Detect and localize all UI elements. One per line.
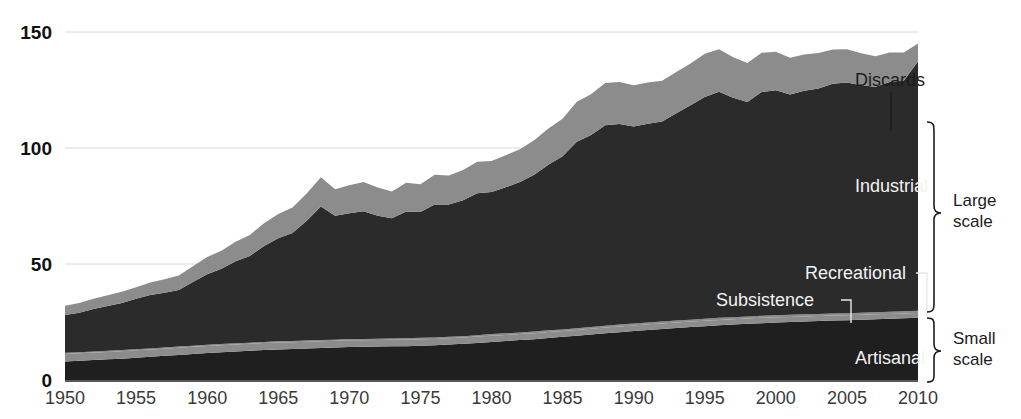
x-tick-1975: 1975 <box>400 388 440 408</box>
bracket-large-scale-label-line1: Large <box>953 191 996 210</box>
bracket-large-scale-label-line2: scale <box>953 212 993 231</box>
annotation-discards-label: Discards <box>855 70 925 90</box>
x-tick-1995: 1995 <box>685 388 725 408</box>
x-axis-tick-labels: 1950195519601965197019751980198519901995… <box>45 388 938 408</box>
x-tick-1990: 1990 <box>614 388 654 408</box>
x-tick-2005: 2005 <box>827 388 867 408</box>
annotation-recreational-label: Recreational <box>805 263 906 283</box>
annotation-industrial-label: Industrial <box>855 176 928 196</box>
annotation-artisanal: Artisanal <box>855 348 925 368</box>
bracket-small-scale-shape <box>927 318 941 382</box>
bracket-small-scale-label-line2: scale <box>953 350 993 369</box>
y-tick-100: 100 <box>20 138 52 159</box>
bracket-large-scale-shape <box>927 122 941 312</box>
stacked-area-chart: 150100500 195019551960196519701975198019… <box>0 0 1021 419</box>
x-tick-2000: 2000 <box>756 388 796 408</box>
x-tick-1980: 1980 <box>471 388 511 408</box>
bracket-small-scale: Small scale <box>927 318 996 382</box>
x-tick-2010: 2010 <box>898 388 938 408</box>
x-tick-1965: 1965 <box>258 388 298 408</box>
y-axis-tick-labels: 150100500 <box>20 22 52 391</box>
y-tick-150: 150 <box>20 22 52 43</box>
annotation-artisanal-label: Artisanal <box>855 348 925 368</box>
x-tick-1950: 1950 <box>45 388 85 408</box>
area-series-group <box>65 44 918 380</box>
chart-figure: 150100500 195019551960196519701975198019… <box>0 0 1021 419</box>
annotation-subsistence-label: Subsistence <box>716 290 814 310</box>
y-tick-50: 50 <box>31 254 52 275</box>
x-tick-1955: 1955 <box>116 388 156 408</box>
x-tick-1970: 1970 <box>329 388 369 408</box>
x-tick-1985: 1985 <box>543 388 583 408</box>
bracket-small-scale-label-line1: Small <box>953 329 996 348</box>
annotation-industrial: Industrial <box>855 176 928 196</box>
bracket-large-scale: Large scale <box>927 122 996 312</box>
x-tick-1960: 1960 <box>187 388 227 408</box>
